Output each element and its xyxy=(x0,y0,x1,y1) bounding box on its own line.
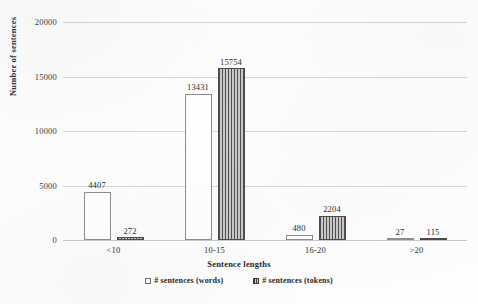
bar-value-label: 115 xyxy=(414,227,453,237)
y-tick-label-0: 0 xyxy=(0,235,57,245)
bar-value-label: 15754 xyxy=(212,57,251,67)
bar-words-10-15 xyxy=(185,94,212,240)
plot-area: 44072721343115754480220427115 xyxy=(63,22,467,240)
y-axis-title: Number of sentences xyxy=(8,17,18,96)
x-tick-label-<10: <10 xyxy=(63,245,164,255)
legend-label-words: # sentences (words) xyxy=(154,276,223,285)
legend-swatch-tokens-icon xyxy=(253,278,259,284)
y-tick-label-20000: 20000 xyxy=(0,17,57,27)
legend-swatch-words-icon xyxy=(145,278,151,284)
gridline-5000 xyxy=(63,186,467,187)
gridline-15000 xyxy=(63,77,467,78)
bar-words-<10 xyxy=(84,192,111,240)
x-axis-title: Sentence lengths xyxy=(0,259,478,269)
y-tick-label-5000: 5000 xyxy=(0,181,57,191)
bar-value-label: 480 xyxy=(280,223,319,233)
legend-item-words: # sentences (words) xyxy=(145,276,223,285)
bar-words->20 xyxy=(387,238,414,240)
x-tick-label-10-15: 10-15 xyxy=(164,245,265,255)
x-tick-label->20: >20 xyxy=(366,245,467,255)
gridline-20000 xyxy=(63,22,467,23)
x-tick-label-16-20: 16-20 xyxy=(265,245,366,255)
y-tick-label-10000: 10000 xyxy=(0,126,57,136)
bar-tokens-10-15 xyxy=(218,68,245,240)
legend-label-tokens: # sentences (tokens) xyxy=(262,276,333,285)
bar-value-label: 13431 xyxy=(179,82,218,92)
bar-value-label: 4407 xyxy=(78,180,117,190)
bar-value-label: 2204 xyxy=(313,204,352,214)
bar-tokens-<10 xyxy=(117,237,144,240)
bar-words-16-20 xyxy=(286,235,313,240)
legend: # sentences (words) # sentences (tokens) xyxy=(0,276,478,285)
bar-tokens-16-20 xyxy=(319,216,346,240)
bar-tokens->20 xyxy=(420,238,447,240)
bar-chart: Number of sentences 05000100001500020000… xyxy=(0,0,478,304)
y-tick-label-15000: 15000 xyxy=(0,72,57,82)
bar-value-label: 272 xyxy=(111,226,150,236)
gridline-10000 xyxy=(63,131,467,132)
gridline-0 xyxy=(63,240,467,241)
legend-item-tokens: # sentences (tokens) xyxy=(253,276,333,285)
